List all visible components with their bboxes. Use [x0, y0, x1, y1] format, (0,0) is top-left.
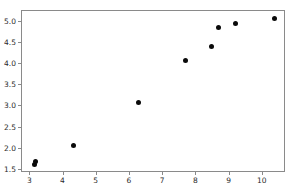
- data-point: [209, 44, 214, 49]
- data-point: [233, 21, 238, 26]
- x-tick-mark: [262, 172, 263, 175]
- data-point: [33, 159, 38, 164]
- x-tick-mark: [96, 172, 97, 175]
- data-point: [216, 25, 221, 30]
- x-tick-label: 9: [226, 176, 231, 185]
- data-point: [136, 100, 141, 105]
- x-tick-label: 10: [257, 176, 267, 185]
- x-tick-label: 7: [160, 176, 165, 185]
- y-tick-label: 3.0: [4, 101, 16, 110]
- y-tick-label: 1.5: [4, 165, 16, 174]
- x-tick-label: 8: [193, 176, 198, 185]
- y-tick-label: 2.0: [4, 143, 16, 152]
- x-tick-mark: [162, 172, 163, 175]
- data-point: [272, 16, 277, 21]
- y-tick-mark: [18, 169, 21, 170]
- y-tick-mark: [18, 127, 21, 128]
- x-tick-label: 4: [60, 176, 65, 185]
- y-tick-mark: [18, 84, 21, 85]
- x-tick-mark: [195, 172, 196, 175]
- y-tick-mark: [18, 63, 21, 64]
- data-point: [183, 58, 188, 63]
- y-tick-mark: [18, 42, 21, 43]
- y-tick-mark: [18, 105, 21, 106]
- x-tick-mark: [29, 172, 30, 175]
- plot-axes-frame: [21, 10, 285, 172]
- x-tick-label: 6: [127, 176, 132, 185]
- y-tick-label: 3.5: [4, 80, 16, 89]
- y-tick-mark: [18, 21, 21, 22]
- x-tick-mark: [129, 172, 130, 175]
- y-tick-mark: [18, 148, 21, 149]
- x-tick-mark: [63, 172, 64, 175]
- plot-data-area: [22, 11, 284, 171]
- y-tick-label: 4.0: [4, 59, 16, 68]
- data-point: [71, 143, 76, 148]
- x-tick-mark: [229, 172, 230, 175]
- y-tick-label: 5.0: [4, 16, 16, 25]
- scatter-plot-figure: 345678910 1.52.02.53.03.54.04.55.0: [0, 0, 295, 195]
- x-tick-label: 5: [93, 176, 98, 185]
- y-tick-label: 4.5: [4, 37, 16, 46]
- x-tick-label: 3: [27, 176, 32, 185]
- y-tick-label: 2.5: [4, 122, 16, 131]
